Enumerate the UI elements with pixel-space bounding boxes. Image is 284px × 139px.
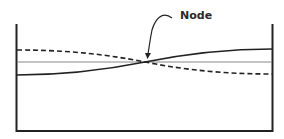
node-arrow bbox=[148, 15, 172, 54]
tank-container bbox=[17, 24, 273, 131]
node-label: Node bbox=[180, 9, 212, 22]
standing-wave-diagram bbox=[0, 0, 284, 139]
node-arrow-head bbox=[145, 53, 151, 59]
